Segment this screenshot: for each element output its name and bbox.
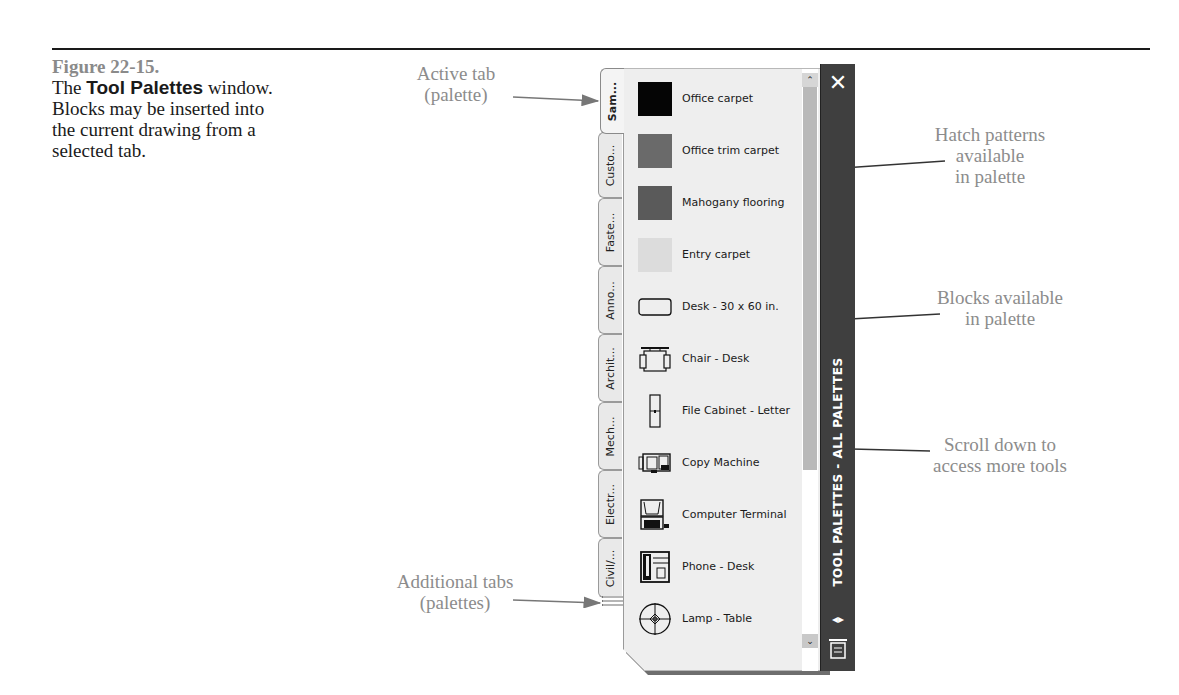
figure-caption: Figure 22-15. The Tool Palettes window. … — [52, 56, 292, 161]
tool-label: Copy Machine — [682, 456, 759, 470]
tool-label: Lamp - Table — [682, 612, 752, 626]
tool-label: Mahogany flooring — [682, 196, 785, 210]
tab-fasteners[interactable]: Faste... — [598, 198, 622, 266]
swatch — [638, 238, 672, 272]
palette-title: TOOL PALETTES - ALL PALETTES — [824, 349, 852, 594]
file-cabinet-icon — [636, 392, 674, 430]
callout-scroll: Scroll down to access more tools — [905, 434, 1095, 476]
palette-content: Office carpet Office trim carpet Mahogan… — [623, 68, 827, 671]
scroll-up-button[interactable]: ⌃ — [802, 73, 818, 87]
hatch-swatch-icon — [636, 184, 674, 222]
desk-icon — [636, 288, 674, 326]
tool-item[interactable]: Mahogany flooring — [636, 183, 816, 223]
tool-label: Phone - Desk — [682, 560, 754, 574]
swatch — [638, 186, 672, 220]
tab-label: Electr... — [604, 483, 617, 524]
tool-item[interactable]: Chair - Desk — [636, 339, 816, 379]
callout-line: Additional tabs — [370, 571, 540, 592]
callout-hatch-patterns: Hatch patterns available in palette — [905, 124, 1075, 187]
callout-line: (palettes) — [370, 592, 540, 613]
callout-line: access more tools — [905, 455, 1095, 476]
tab-annotation[interactable]: Anno... — [598, 266, 622, 334]
computer-terminal-icon — [636, 496, 674, 534]
tool-label: Desk - 30 x 60 in. — [682, 300, 779, 314]
hatch-swatch-icon — [636, 132, 674, 170]
swatch — [638, 134, 672, 168]
callout-line: in palette — [905, 308, 1095, 329]
tool-item[interactable]: Computer Terminal — [636, 495, 816, 535]
swatch — [638, 82, 672, 116]
callout-line: (palette) — [396, 84, 516, 105]
tab-custom[interactable]: Custo... — [598, 132, 622, 198]
copy-machine-icon — [636, 444, 674, 482]
tab-sample[interactable]: Sam... — [600, 68, 624, 134]
callout-line: Active tab — [396, 63, 516, 84]
palette-title-bar[interactable]: ✕ TOOL PALETTES - ALL PALETTES ◂▸ — [820, 64, 855, 671]
properties-menu-icon[interactable] — [828, 638, 848, 660]
tool-label: Office trim carpet — [682, 144, 779, 158]
callout-line: available — [905, 145, 1075, 166]
callout-line: in palette — [905, 166, 1075, 187]
callout-blocks: Blocks available in palette — [905, 287, 1095, 329]
tool-item[interactable]: Office carpet — [636, 79, 816, 119]
tab-label: Sam... — [606, 81, 619, 120]
callout-line: Blocks available — [905, 287, 1095, 308]
tab-label: Mech... — [604, 416, 617, 456]
scroll-down-button[interactable]: ⌄ — [802, 634, 818, 648]
additional-tabs-stack[interactable] — [602, 596, 624, 610]
tab-architectural[interactable]: Archit... — [598, 334, 622, 402]
tool-item[interactable]: Copy Machine — [636, 443, 816, 483]
palette-title-text: TOOL PALETTES - ALL PALETTES — [831, 357, 845, 586]
close-icon[interactable]: ✕ — [825, 70, 851, 96]
chair-icon — [636, 340, 674, 378]
tool-label: File Cabinet - Letter — [682, 404, 792, 418]
tab-label: Custo... — [604, 144, 617, 186]
callout-line: Hatch patterns — [905, 124, 1075, 145]
tool-label: Office carpet — [682, 92, 753, 106]
tool-item[interactable]: Entry carpet — [636, 235, 816, 275]
tool-item[interactable]: Desk - 30 x 60 in. — [636, 287, 816, 327]
vertical-scrollbar[interactable]: ⌃ ⌄ — [802, 69, 818, 672]
lamp-icon — [636, 600, 674, 638]
figure-number: Figure 22-15. — [52, 56, 292, 77]
caption-prefix: The — [52, 77, 86, 98]
hatch-swatch-icon — [636, 236, 674, 274]
auto-hide-icon[interactable]: ◂▸ — [827, 612, 849, 630]
top-rule — [52, 48, 1150, 50]
palette-tab-strip: Sam... Custo... Faste... Anno... Archit.… — [598, 68, 624, 656]
scroll-thumb[interactable] — [803, 87, 817, 470]
tool-label: Entry carpet — [682, 248, 750, 262]
caption-bold: Tool Palettes — [86, 77, 203, 98]
callout-active-tab: Active tab (palette) — [396, 63, 516, 105]
tab-label: Faste... — [604, 212, 617, 251]
tool-label: Computer Terminal — [682, 508, 787, 522]
tool-item[interactable]: File Cabinet - Letter — [636, 391, 816, 431]
phone-icon — [636, 548, 674, 586]
tab-label: Anno... — [604, 281, 617, 320]
callout-additional-tabs: Additional tabs (palettes) — [370, 571, 540, 613]
tab-electrical[interactable]: Electr... — [598, 470, 622, 538]
hatch-swatch-icon — [636, 80, 674, 118]
tool-palettes-window: Sam... Custo... Faste... Anno... Archit.… — [598, 68, 856, 673]
callout-line: Scroll down to — [905, 434, 1095, 455]
tab-label: Civil/... — [604, 549, 617, 587]
tab-civil[interactable]: Civil/... — [598, 538, 622, 598]
tool-label: Chair - Desk — [682, 352, 749, 366]
tool-item[interactable]: Office trim carpet — [636, 131, 816, 171]
tool-item[interactable]: Phone - Desk — [636, 547, 816, 587]
tab-label: Archit... — [604, 347, 617, 390]
tab-mechanical[interactable]: Mech... — [598, 402, 622, 470]
tool-item[interactable]: Lamp - Table — [636, 599, 816, 639]
